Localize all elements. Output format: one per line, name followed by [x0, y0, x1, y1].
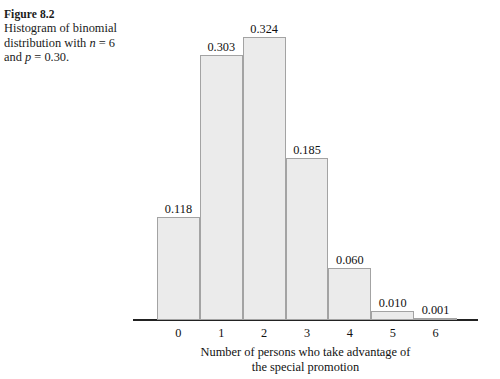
- histogram-plot: 0.118 0.303 0.324 0.185 0.060 0.010 0.00…: [0, 0, 500, 379]
- x-tick-label-4: 4: [328, 327, 371, 340]
- bar-value-4: 0.060: [322, 254, 377, 267]
- x-tick-label-0: 0: [157, 327, 200, 340]
- bar-value-2: 0.324: [237, 23, 292, 36]
- bar-0: [157, 217, 200, 320]
- bar-value-0: 0.118: [151, 203, 206, 216]
- figure-page: Figure 8.2 Histogram of binomial distrib…: [0, 0, 500, 379]
- bar-3: [286, 158, 329, 320]
- bar-1: [200, 55, 243, 320]
- x-axis-label: Number of persons who take advantage of …: [133, 345, 478, 375]
- x-tick-label-3: 3: [286, 327, 329, 340]
- bar-2: [243, 37, 286, 320]
- x-axis-label-line-2: the special promotion: [252, 360, 359, 374]
- x-axis-label-line-1: Number of persons who take advantage of: [201, 345, 411, 359]
- x-tick-label-2: 2: [243, 327, 286, 340]
- bar-4: [328, 268, 371, 320]
- x-tick-label-1: 1: [200, 327, 243, 340]
- bar-value-6: 0.001: [408, 304, 463, 317]
- bar-6: [414, 318, 457, 320]
- bar-value-3: 0.185: [280, 144, 335, 157]
- bar-value-1: 0.303: [194, 41, 249, 54]
- x-tick-label-5: 5: [371, 327, 414, 340]
- x-tick-label-6: 6: [414, 327, 457, 340]
